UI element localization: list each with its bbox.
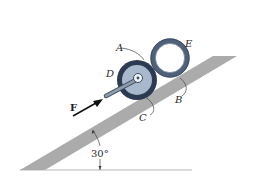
- label-A: A: [115, 42, 123, 53]
- label-F: F: [70, 102, 77, 113]
- ring-E: [151, 39, 189, 77]
- force-arrow-F: [73, 99, 103, 116]
- label-C: C: [139, 112, 147, 123]
- label-B: B: [174, 94, 182, 105]
- diagram-canvas: A E D B C F 30°: [0, 0, 253, 188]
- angle-label: 30°: [91, 148, 109, 159]
- label-E: E: [184, 38, 193, 49]
- label-D: D: [105, 68, 114, 79]
- leader-A: [121, 48, 144, 60]
